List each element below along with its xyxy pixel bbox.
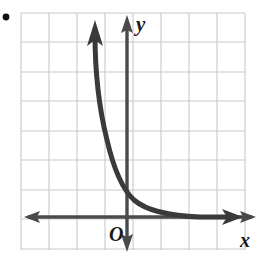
origin-label: O — [109, 224, 123, 244]
exponential-decay-curve — [87, 20, 243, 225]
y-axis-label: y — [136, 14, 145, 35]
grid-lines — [21, 13, 245, 250]
graph-canvas — [0, 0, 264, 258]
graph-figure: y x O — [0, 0, 264, 258]
x-axis-label: x — [240, 230, 250, 250]
bullet-marker-icon — [3, 14, 10, 21]
